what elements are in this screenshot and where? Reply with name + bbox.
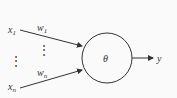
neuron-diagram: x1 w1 ⋮ ⋮ xn wn θ y — [0, 0, 177, 98]
input-xn-edge — [20, 70, 82, 88]
weight-ellipsis: ⋮ — [38, 43, 50, 57]
input-ellipsis: ⋮ — [10, 54, 22, 68]
input-x1-label: x1 — [7, 24, 16, 37]
weight-w1-label: w1 — [37, 22, 47, 35]
weight-wn-label: wn — [37, 67, 48, 80]
neuron-threshold-label: θ — [103, 53, 108, 64]
output-y-label: y — [156, 53, 162, 64]
input-x1-edge — [20, 30, 82, 46]
input-xn-label: xn — [7, 81, 16, 94]
